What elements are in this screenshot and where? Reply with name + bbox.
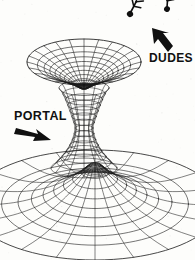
dudes-arrow-icon xyxy=(152,28,173,52)
stick-figure-left xyxy=(121,0,147,18)
portal-arrow-icon xyxy=(14,128,51,141)
portal-label: PORTAL xyxy=(14,110,67,123)
stick-figure-right xyxy=(156,0,179,13)
dudes-label: DUDES xyxy=(149,52,193,64)
upper-funnel-mesh xyxy=(27,39,141,89)
stick-figure-group xyxy=(121,0,179,18)
wormhole-wireframe xyxy=(0,0,195,260)
lower-funnel-mesh xyxy=(0,150,195,260)
portal-illustration: PORTAL DUDES xyxy=(0,0,195,260)
